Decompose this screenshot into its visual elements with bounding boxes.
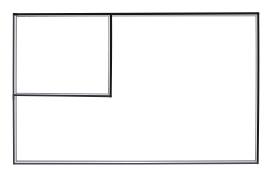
- outer-frame-top-stroke: [14, 13, 258, 14]
- outer-frame-right-stroke: [258, 14, 259, 163]
- panel-bottom-left[interactable]: [16, 97, 110, 161]
- panel-top-left[interactable]: [16, 16, 110, 95]
- corner-overshoot-top-left: [14, 14, 18, 15]
- panel-right[interactable]: [112, 16, 257, 161]
- outer-frame-bottom-stroke: [14, 163, 258, 164]
- wireframe-sketch-canvas: [0, 0, 271, 173]
